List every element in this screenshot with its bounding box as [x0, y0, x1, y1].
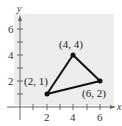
triangle-plot: x y 2 4 6 2 4 6 (2, 1) (4, 4) (6, 2) [0, 0, 122, 126]
point-label-4-4: (4, 4) [59, 38, 83, 51]
y-tick-label-4: 4 [8, 49, 14, 61]
y-tick-label-6: 6 [8, 23, 14, 35]
point-6-2 [98, 79, 103, 84]
x-tick-label-2: 2 [44, 111, 50, 123]
y-axis-label: y [16, 3, 22, 14]
point-label-2-1: (2, 1) [24, 75, 48, 88]
point-label-6-2: (6, 2) [82, 87, 106, 100]
x-tick-label-6: 6 [97, 111, 103, 123]
x-axis-label: x [116, 101, 122, 112]
point-2-1 [45, 92, 50, 97]
x-axis-arrow-icon [110, 105, 116, 109]
y-tick-label-2: 2 [8, 75, 14, 87]
point-4-4 [71, 53, 76, 58]
x-tick-label-4: 4 [70, 111, 76, 123]
